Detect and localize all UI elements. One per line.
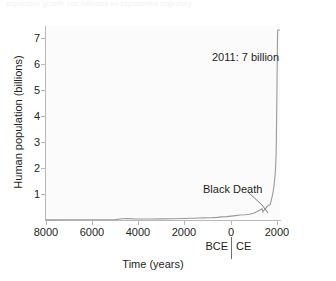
x-tick-mark-6000bce (92, 221, 93, 225)
x-tick-mark-4000bce (138, 221, 139, 225)
x-axis-line (45, 220, 281, 221)
x-axis-title: Time (years) (88, 258, 218, 270)
era-label-ce: CE (236, 240, 268, 252)
y-tick-mark-3 (41, 142, 46, 143)
y-tick-mark-5 (41, 90, 46, 91)
annotation-7-billion: 2011: 7 billion (212, 51, 279, 63)
y-tick-mark-4 (41, 116, 46, 117)
era-label-bce: BCE (196, 240, 228, 252)
x-tick-mark-2000ce (277, 221, 278, 225)
x-tick-mark-8000bce (46, 221, 47, 225)
y-tick-mark-2 (41, 168, 46, 169)
y-axis-line (45, 26, 46, 221)
faint-cropped-caption: population growth has followed an expone… (6, 0, 226, 9)
y-axis-title: Human population (billions) (12, 32, 24, 212)
x-tick-mark-2000bce (184, 221, 185, 225)
y-tick-mark-7 (41, 38, 46, 39)
era-divider (231, 237, 232, 259)
y-tick-mark-1 (41, 194, 46, 195)
y-tick-mark-6 (41, 64, 46, 65)
x-tick-mark-0 (231, 221, 232, 225)
x-tick-label-2000ce: 2000 (247, 226, 307, 238)
annotation-black-death: Black Death (203, 183, 262, 195)
population-growth-figure: population growth has followed an expone… (0, 0, 336, 281)
